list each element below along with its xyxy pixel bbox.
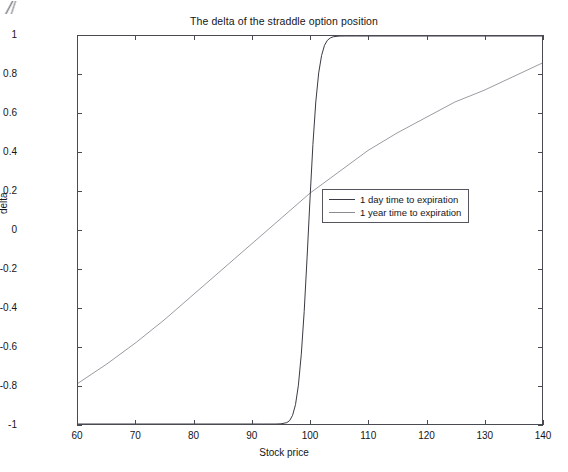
tick-mark	[135, 35, 136, 40]
tick-mark	[77, 386, 82, 387]
y-tick-label: 0.4	[3, 147, 17, 157]
tick-mark	[368, 420, 369, 425]
series-canvas	[78, 36, 542, 424]
y-tick-label: 0	[11, 225, 17, 235]
tick-mark	[538, 113, 543, 114]
x-tick-label: 80	[174, 431, 214, 441]
tick-mark	[194, 420, 195, 425]
tick-mark	[427, 35, 428, 40]
tick-mark	[543, 420, 544, 425]
x-tick-label: 100	[290, 431, 330, 441]
tick-mark	[543, 35, 544, 40]
x-tick-label: 120	[407, 431, 447, 441]
tick-mark	[252, 35, 253, 40]
tick-mark	[310, 35, 311, 40]
tick-mark	[427, 420, 428, 425]
tick-mark	[310, 420, 311, 425]
tick-mark	[485, 420, 486, 425]
x-axis-label: Stock price	[0, 447, 568, 458]
tick-mark	[368, 35, 369, 40]
tick-mark	[77, 308, 82, 309]
matlab-figure: The delta of the straddle option positio…	[0, 0, 568, 472]
tick-mark	[77, 35, 82, 36]
series-line-1-day	[78, 36, 542, 424]
y-tick-label: -0.6	[0, 342, 17, 352]
tick-mark	[538, 308, 543, 309]
tick-mark	[538, 230, 543, 231]
series-line-1-year	[78, 63, 542, 383]
y-tick-label: 0.6	[3, 108, 17, 118]
legend-swatch-1-year	[329, 212, 355, 213]
y-axis-label: delta	[0, 192, 9, 214]
x-tick-label: 90	[232, 431, 272, 441]
tick-mark	[77, 230, 82, 231]
y-tick-label: -0.2	[0, 264, 17, 274]
tick-mark	[77, 425, 82, 426]
tick-mark	[194, 35, 195, 40]
tick-mark	[538, 152, 543, 153]
tick-mark	[538, 269, 543, 270]
legend-item: 1 day time to expiration	[323, 193, 468, 206]
y-tick-label: -1	[8, 420, 17, 430]
legend-swatch-1-day	[329, 199, 355, 200]
legend-label-1-year: 1 year time to expiration	[360, 208, 461, 218]
y-tick-label: -0.8	[0, 381, 17, 391]
x-tick-label: 60	[57, 431, 97, 441]
x-tick-label: 70	[115, 431, 155, 441]
scan-artifact	[3, 1, 17, 14]
y-tick-label: 0.8	[3, 69, 17, 79]
tick-mark	[77, 113, 82, 114]
y-tick-label: 1	[11, 30, 17, 40]
tick-mark	[135, 420, 136, 425]
tick-mark	[77, 347, 82, 348]
tick-mark	[77, 269, 82, 270]
tick-mark	[538, 386, 543, 387]
tick-mark	[77, 191, 82, 192]
tick-mark	[538, 35, 543, 36]
tick-mark	[538, 425, 543, 426]
tick-mark	[77, 74, 82, 75]
tick-mark	[538, 74, 543, 75]
tick-mark	[538, 347, 543, 348]
tick-mark	[538, 191, 543, 192]
plot-axes-frame	[77, 35, 543, 425]
plot-surface	[78, 36, 542, 424]
legend-box[interactable]: 1 day time to expiration 1 year time to …	[322, 189, 469, 223]
page-title: The delta of the straddle option positio…	[0, 15, 568, 27]
x-tick-label: 130	[465, 431, 505, 441]
y-tick-label: -0.4	[0, 303, 17, 313]
tick-mark	[485, 35, 486, 40]
legend-item: 1 year time to expiration	[323, 206, 468, 219]
x-tick-label: 110	[348, 431, 388, 441]
tick-mark	[252, 420, 253, 425]
tick-mark	[77, 152, 82, 153]
legend-label-1-day: 1 day time to expiration	[360, 195, 458, 205]
x-tick-label: 140	[523, 431, 563, 441]
